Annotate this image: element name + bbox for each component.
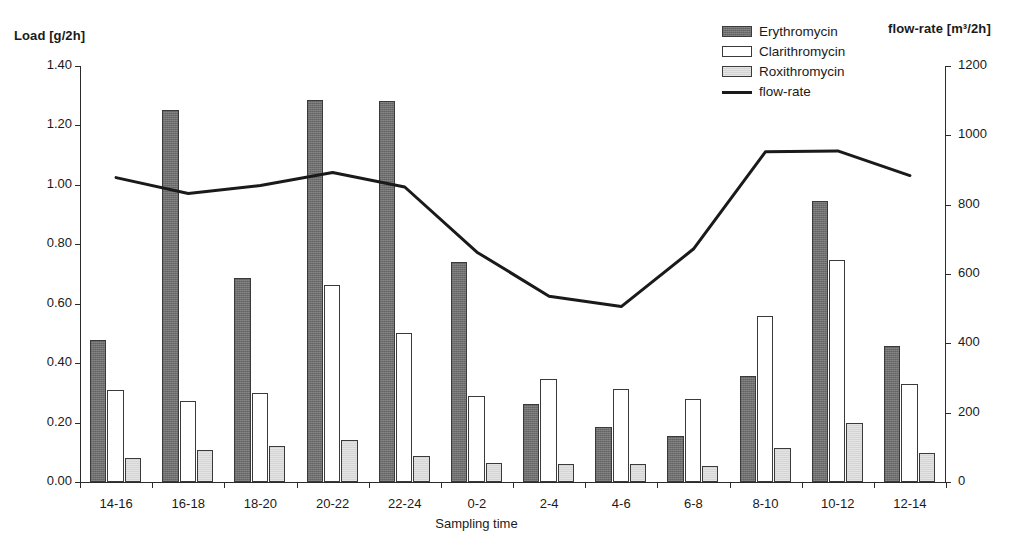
right-axis-tick-label: 0	[958, 473, 965, 488]
legend-item-clarithromycin: Clarithromycin	[722, 42, 892, 61]
left-axis-tick-label: 1.20	[47, 116, 72, 131]
left-axis-tick-label: 1.40	[47, 57, 72, 72]
left-axis-tick-label: 0.20	[47, 414, 72, 429]
category-label: 20-22	[297, 496, 369, 511]
right-axis-tick	[946, 413, 951, 414]
legend-item-erythromycin: Erythromycin	[722, 22, 892, 41]
legend-label: Clarithromycin	[759, 44, 845, 59]
category-label: 22-24	[369, 496, 441, 511]
right-axis-tick	[946, 135, 951, 136]
x-axis-tick	[946, 482, 947, 488]
category-label: 0-2	[441, 496, 513, 511]
category-label: 6-8	[657, 496, 729, 511]
page-edge-margin	[0, 545, 1029, 559]
category-label: 2-4	[513, 496, 585, 511]
left-axis-tick-label: 0.60	[47, 295, 72, 310]
right-axis-tick-label: 1200	[958, 57, 987, 72]
right-axis-title: flow-rate [m³/2h]	[888, 21, 991, 36]
right-axis-tick	[946, 343, 951, 344]
category-label: 18-20	[224, 496, 296, 511]
legend-swatch-clarithromycin-icon	[722, 46, 752, 57]
category-label: 8-10	[730, 496, 802, 511]
category-label: 16-18	[152, 496, 224, 511]
right-axis-tick	[946, 274, 951, 275]
category-label: 4-6	[585, 496, 657, 511]
right-axis-tick-label: 600	[958, 265, 980, 280]
right-axis-tick-label: 200	[958, 404, 980, 419]
right-axis-tick-label: 800	[958, 196, 980, 211]
right-axis-tick	[946, 66, 951, 67]
left-axis-tick-label: 0.80	[47, 235, 72, 250]
right-axis-tick-label: 400	[958, 334, 980, 349]
category-label: 12-14	[874, 496, 946, 511]
flow-rate-line-series	[80, 66, 946, 483]
left-axis-tick-label: 0.40	[47, 354, 72, 369]
category-label: 10-12	[802, 496, 874, 511]
left-axis-tick-label: 0.00	[47, 473, 72, 488]
chart-figure: Load [g/2h] flow-rate [m³/2h] Erythromyc…	[0, 0, 1029, 559]
x-axis-title-text: Sampling time	[435, 516, 517, 531]
category-label: 14-16	[80, 496, 152, 511]
plot-area: 0.000.200.400.600.801.001.201.40 0200400…	[80, 66, 946, 482]
left-axis-title: Load [g/2h]	[14, 28, 85, 43]
right-axis-tick-label: 1000	[958, 126, 987, 141]
x-axis-title: Sampling time	[0, 516, 1029, 531]
legend-label: Erythromycin	[759, 24, 838, 39]
legend-swatch-erythromycin-icon	[722, 26, 752, 37]
left-axis-tick-label: 1.00	[47, 176, 72, 191]
right-axis-tick	[946, 205, 951, 206]
